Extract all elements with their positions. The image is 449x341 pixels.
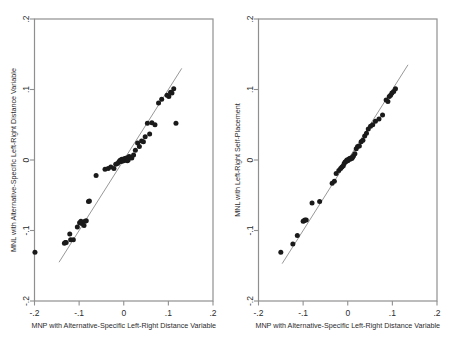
- y-tick-label: 0: [21, 157, 31, 162]
- y-tick-label: -.2: [245, 296, 255, 306]
- data-point: [278, 250, 283, 255]
- x-tick-label: -.1: [298, 308, 308, 318]
- data-point: [131, 153, 136, 158]
- left-panel-canvas: -.2-.10.1.2-.2-.10.1.2MNP with Alternati…: [0, 0, 224, 341]
- data-point: [141, 139, 146, 144]
- x-tick-label: .1: [165, 308, 172, 318]
- data-point: [87, 198, 92, 203]
- data-point: [84, 218, 89, 223]
- right-panel-canvas: -.2-.10.1.2-.2-.10.1.2MNP with Alternati…: [224, 0, 448, 341]
- data-point: [295, 233, 300, 238]
- data-point: [380, 112, 385, 117]
- y-tick-label: 0: [245, 157, 255, 162]
- y-tick-label: .2: [245, 15, 255, 22]
- data-point: [71, 237, 76, 242]
- x-tick-label: 0: [345, 308, 350, 318]
- data-point: [317, 199, 322, 204]
- data-point: [94, 173, 99, 178]
- data-point: [137, 144, 142, 149]
- left-panel: -.2-.10.1.2-.2-.10.1.2MNP with Alternati…: [0, 0, 224, 341]
- data-point: [147, 131, 152, 136]
- data-point: [171, 86, 176, 91]
- data-point: [376, 117, 381, 122]
- y-tick-label: .1: [245, 86, 255, 93]
- data-point: [385, 99, 390, 104]
- data-point: [310, 201, 315, 206]
- data-point: [159, 97, 164, 102]
- x-tick-label: .1: [389, 308, 396, 318]
- reference-line: [59, 68, 182, 262]
- data-point: [82, 223, 87, 228]
- data-point: [332, 179, 337, 184]
- data-point: [304, 217, 309, 222]
- y-tick-label: -.2: [21, 296, 31, 306]
- data-point: [67, 232, 72, 237]
- data-point: [352, 151, 357, 156]
- scatter-plot-figure: -.2-.10.1.2-.2-.10.1.2MNP with Alternati…: [0, 0, 449, 341]
- x-tick-label: -.2: [30, 308, 40, 318]
- data-point: [75, 224, 80, 229]
- y-axis-title: MNL with Left-Right Self-Placement: [233, 103, 242, 217]
- x-tick-label: .2: [433, 308, 440, 318]
- x-tick-label: -.2: [254, 308, 264, 318]
- data-point: [393, 86, 398, 91]
- x-tick-label: .2: [209, 308, 216, 318]
- data-point: [290, 241, 295, 246]
- data-point: [32, 250, 37, 255]
- y-tick-label: .1: [21, 86, 31, 93]
- data-point: [143, 134, 148, 139]
- x-axis-title: MNP with Alternative-Specific Left-Right…: [31, 321, 216, 330]
- y-axis-title: MNL with Alternative-Specific Left-Right…: [9, 68, 18, 252]
- y-tick-label: .2: [21, 15, 31, 22]
- right-panel: -.2-.10.1.2-.2-.10.1.2MNP with Alternati…: [224, 0, 448, 341]
- data-point: [145, 121, 150, 126]
- x-tick-label: -.1: [74, 308, 84, 318]
- data-point: [152, 122, 157, 127]
- y-tick-label: -.1: [21, 225, 31, 235]
- data-point: [173, 121, 178, 126]
- x-tick-label: 0: [121, 308, 126, 318]
- x-axis-title: MNP with Alternative-Specific Left-Right…: [255, 321, 440, 330]
- data-point: [133, 148, 138, 153]
- data-point: [64, 240, 69, 245]
- y-tick-label: -.1: [245, 225, 255, 235]
